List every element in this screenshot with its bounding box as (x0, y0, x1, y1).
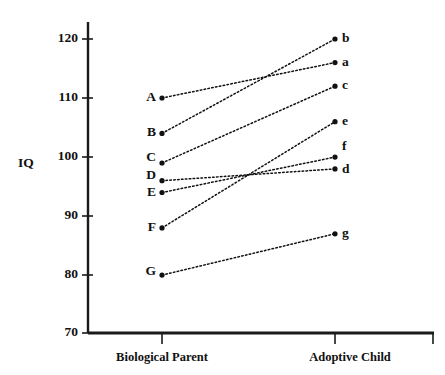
marker-E-right (332, 155, 337, 160)
ytick-label-100: 100 (58, 148, 79, 163)
y-axis-tick-labels: 120 110 100 90 80 70 (58, 30, 79, 339)
point-label-C: C (146, 149, 156, 164)
y-axis-title: IQ (18, 155, 34, 170)
point-label-F: F (148, 219, 156, 234)
series-line-F (162, 122, 335, 228)
point-label-a: a (342, 54, 349, 69)
series-D: D d (146, 161, 350, 184)
marker-A-right (332, 60, 337, 65)
point-label-A: A (146, 89, 156, 104)
marker-E-left (159, 190, 164, 195)
point-label-g: g (342, 225, 349, 240)
marker-D-right (332, 166, 337, 171)
point-label-c: c (342, 77, 348, 92)
series-B: B b (147, 30, 350, 139)
point-label-e: e (342, 113, 348, 128)
point-label-b: b (342, 30, 350, 45)
chart-root: 120 110 100 90 80 70 IQ Biological Paren… (0, 0, 445, 375)
series-A: A a (146, 54, 349, 104)
iq-scatter-line-chart: 120 110 100 90 80 70 IQ Biological Paren… (0, 0, 445, 375)
ytick-label-110: 110 (58, 89, 78, 104)
marker-F-right (332, 119, 337, 124)
series-line-G (162, 234, 335, 275)
marker-D-left (159, 178, 164, 183)
ytick-label-90: 90 (65, 207, 79, 222)
ytick-label-120: 120 (58, 30, 79, 45)
ytick-label-70: 70 (65, 324, 79, 339)
series-G: G g (145, 225, 349, 278)
series-line-C (162, 86, 335, 163)
xaxis-category-adoptive-child: Adoptive Child (309, 350, 391, 364)
point-label-E: E (147, 184, 156, 199)
x-axis-ticks (162, 333, 433, 344)
marker-C-right (332, 84, 337, 89)
series-F: F e (148, 113, 348, 234)
series-line-A (162, 63, 335, 98)
series-E: E f (147, 138, 347, 199)
series-C: C c (146, 77, 348, 165)
marker-F-left (159, 225, 164, 230)
xaxis-category-biological-parent: Biological Parent (116, 350, 209, 364)
point-label-D: D (146, 167, 156, 182)
series-line-B (162, 39, 335, 133)
marker-C-left (159, 160, 164, 165)
point-label-f: f (342, 138, 347, 153)
point-label-d: d (342, 161, 350, 176)
point-label-B: B (147, 124, 156, 139)
marker-B-left (159, 131, 164, 136)
marker-G-right (332, 231, 337, 236)
point-label-G: G (145, 263, 156, 278)
ytick-label-80: 80 (65, 266, 79, 281)
marker-A-left (159, 95, 164, 100)
marker-G-left (159, 273, 164, 278)
marker-B-right (332, 36, 337, 41)
